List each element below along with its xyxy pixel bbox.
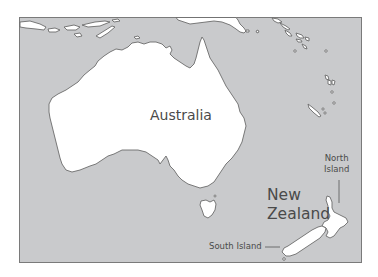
island-dot-bass (214, 195, 216, 197)
island-dot-4 (333, 102, 335, 104)
label-new-zealand: New Zealand (267, 186, 330, 224)
island-small-png (256, 30, 259, 33)
label-australia: Australia (150, 108, 212, 122)
island-vanuatu-3 (332, 80, 335, 85)
label-new-zealand-line1: New (267, 186, 330, 205)
island-dot-5 (322, 108, 324, 110)
island-stewart (283, 258, 286, 261)
label-new-zealand-line2: Zealand (267, 205, 330, 224)
island-dot-3 (331, 91, 333, 93)
map-canvas (0, 0, 378, 277)
island-dot-2 (325, 50, 327, 52)
label-south-island: South Island (209, 242, 262, 251)
island-small-1 (112, 19, 120, 22)
label-north-island-line1: North (324, 153, 349, 164)
island-dot-6 (324, 112, 326, 114)
island-fergusson (246, 30, 249, 32)
label-north-island: North Island (324, 153, 349, 175)
island-dot-1 (294, 50, 296, 52)
label-north-island-line2: Island (324, 164, 349, 175)
island-vanuatu-2 (328, 80, 331, 85)
